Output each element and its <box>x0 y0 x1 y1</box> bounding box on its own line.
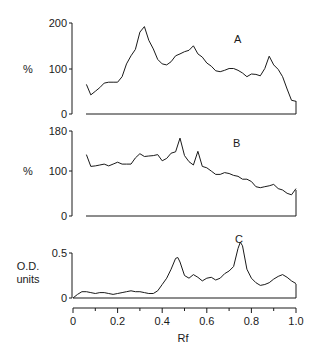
rf-tick-label-0.8: 0.8 <box>244 315 259 327</box>
panel-a-series-line <box>86 27 296 102</box>
panel-c-tick-label-0: 0 <box>61 292 67 304</box>
rf-axis: 0 0.2 0.4 0.6 0.8 1.0 Rf <box>70 308 304 344</box>
rf-tick-label-0.2: 0.2 <box>110 315 125 327</box>
rf-tick-label-0: 0 <box>70 315 76 327</box>
panel-a-tick-label-0: 0 <box>61 108 67 120</box>
panel-a-y-label: % <box>23 63 33 75</box>
panel-a-tick-label-100: 100 <box>49 63 67 75</box>
panel-c-y-label-line1: O.D. <box>17 260 40 272</box>
rf-axis-ticks <box>73 308 296 313</box>
panel-c-tick-label-0.5: 0.5 <box>52 247 67 259</box>
rf-axis-label: Rf <box>178 332 190 344</box>
panel-c: 0.5 0 O.D. units C <box>16 233 296 304</box>
panel-a-tick-label-200: 200 <box>49 17 67 29</box>
panel-c-y-label-line2: units <box>16 273 40 285</box>
chart-figure: 200 100 0 % A 180 100 0 % B 0.5 0 O.D. u… <box>0 0 325 356</box>
rf-tick-label-0.6: 0.6 <box>199 315 214 327</box>
panel-b-tick-label-180: 180 <box>49 125 67 137</box>
panel-b-series-line <box>86 138 296 195</box>
panel-b-letter: B <box>233 137 240 149</box>
panel-b-tick-label-0: 0 <box>61 210 67 222</box>
rf-tick-label-0.4: 0.4 <box>155 315 170 327</box>
panel-b-y-label: % <box>23 165 33 177</box>
panel-a-letter: A <box>234 33 242 45</box>
rf-tick-label-1.0: 1.0 <box>288 315 303 327</box>
panel-a: 200 100 0 % A <box>23 17 296 120</box>
panel-b-tick-label-100: 100 <box>49 165 67 177</box>
panel-c-series-line <box>73 242 296 298</box>
panel-b: 180 100 0 % B <box>23 125 296 222</box>
panel-c-letter: C <box>235 233 243 245</box>
